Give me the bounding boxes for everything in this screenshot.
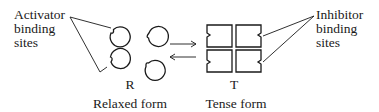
- pointer-line: [263, 16, 314, 62]
- label-line: Activator: [14, 7, 65, 22]
- pointer-line: [70, 17, 111, 28]
- tense-letter: T: [230, 77, 239, 92]
- square-subunit: [236, 25, 261, 47]
- arrow-right-icon: [170, 41, 196, 47]
- tense-form-caption: Tense form: [206, 96, 267, 111]
- pointer-line: [263, 16, 314, 36]
- label-line: Inhibitor: [316, 7, 364, 22]
- arrow-left-icon: [170, 54, 196, 60]
- activator-pointer-lines: [70, 17, 111, 72]
- label-line: sites: [316, 35, 340, 50]
- activator-binding-sites-label: Activator binding sites: [14, 7, 65, 50]
- relaxed-form-caption: Relaxed form: [93, 96, 167, 111]
- circle-subunit: [145, 60, 165, 80]
- circle-subunit: [110, 27, 130, 47]
- square-subunit: [207, 25, 232, 47]
- square-subunit: [207, 50, 232, 72]
- label-line: binding: [14, 21, 56, 36]
- circle-subunit: [147, 26, 168, 46]
- circle-subunit: [111, 49, 131, 69]
- inhibitor-pointer-lines: [263, 16, 314, 62]
- inhibitor-binding-sites-label: Inhibitor binding sites: [316, 7, 364, 50]
- label-line: sites: [14, 35, 38, 50]
- tense-form-subunits: [207, 25, 261, 72]
- square-subunit: [236, 50, 261, 72]
- relaxed-letter: R: [125, 77, 134, 92]
- allosteric-enzyme-diagram: Activator binding sites: [0, 0, 379, 112]
- label-line: binding: [316, 21, 358, 36]
- relaxed-form-subunits: [110, 26, 168, 80]
- equilibrium-arrows: [170, 41, 196, 60]
